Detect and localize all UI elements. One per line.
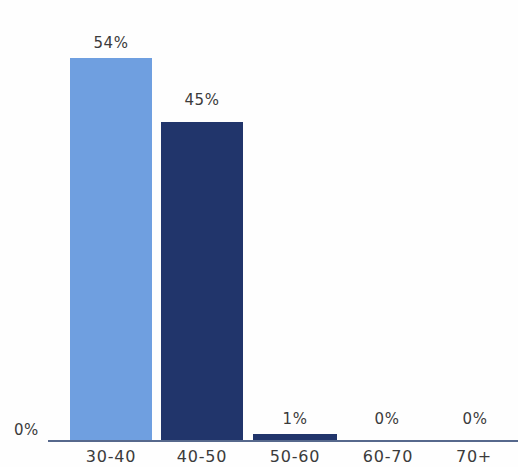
- value-label-60-70: 0%: [345, 410, 429, 428]
- bar-chart: 0% 54% 45% 1% 0% 0% 30-40 40-50 50-60 60…: [0, 0, 518, 467]
- bar-30-40: [70, 58, 152, 441]
- value-label-30-40: 54%: [70, 34, 152, 52]
- category-label-70-plus: 70+: [434, 447, 514, 467]
- plot-area: 0% 54% 45% 1% 0% 0% 30-40 40-50 50-60 60…: [0, 0, 518, 467]
- value-label-50-60: 1%: [253, 410, 337, 428]
- category-label-40-50: 40-50: [157, 447, 247, 467]
- y-axis-zero-label: 0%: [14, 421, 48, 440]
- value-label-40-50: 45%: [161, 91, 243, 109]
- x-axis-line: [48, 440, 518, 442]
- value-label-70-plus: 0%: [437, 410, 513, 428]
- category-label-60-70: 60-70: [342, 447, 434, 467]
- category-label-50-60: 50-60: [249, 447, 341, 467]
- bar-40-50: [161, 122, 243, 441]
- category-label-30-40: 30-40: [66, 447, 156, 467]
